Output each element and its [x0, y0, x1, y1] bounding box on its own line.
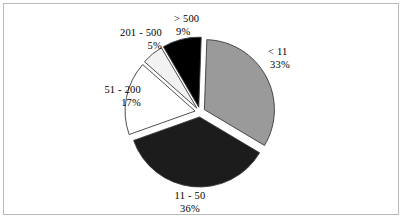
pie-label-gt-500: > 500 9%	[168, 13, 224, 38]
pie-label-category: < 11	[268, 46, 290, 59]
pie-slice-group	[125, 37, 274, 187]
pie-label-11-50: 11 - 50 36%	[150, 190, 230, 215]
pie-label-category: 11 - 50	[150, 190, 230, 203]
pie-label-percent: 36%	[150, 203, 230, 216]
pie-label-51-200: 51 - 200 17%	[79, 84, 141, 109]
pie-label-category: > 500	[168, 13, 224, 26]
pie-label-category: 201 - 500	[90, 27, 162, 40]
pie-label-percent: 33%	[268, 59, 290, 72]
pie-label-percent: 5%	[90, 40, 162, 53]
pie-label-201-500: 201 - 500 5%	[90, 27, 162, 52]
pie-label-percent: 17%	[79, 97, 141, 110]
pie-label-percent: 9%	[168, 26, 224, 39]
chart-figure: < 11 33% 11 - 50 36% 51 - 200 17% 201 - …	[0, 0, 404, 220]
pie-label-lt-11: < 11 33%	[268, 46, 290, 71]
pie-label-category: 51 - 200	[79, 84, 141, 97]
